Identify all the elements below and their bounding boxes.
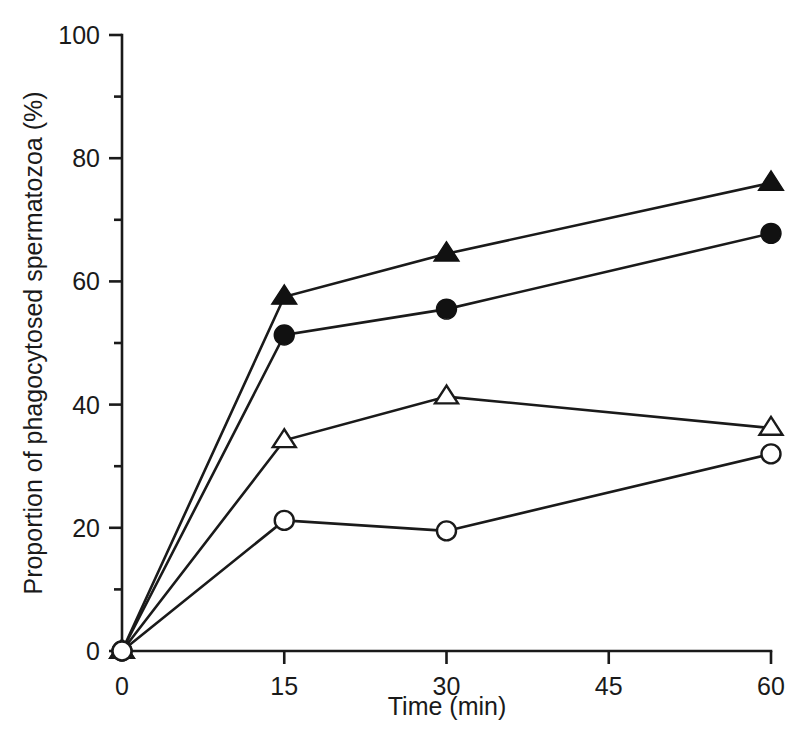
x-axis-tick-label: 15 <box>270 672 298 700</box>
data-point-open-circle <box>275 511 294 530</box>
axes <box>109 35 771 664</box>
origin-marker-cluster <box>110 639 135 661</box>
x-axis-tick-label: 45 <box>595 672 623 700</box>
line-chart: 020406080100015304560 Time (min) Proport… <box>0 0 804 741</box>
data-point-open-triangle <box>435 386 458 404</box>
y-axis-tick-label: 80 <box>72 144 100 172</box>
data-point-open-triangle <box>760 417 783 435</box>
data-point-open-circle <box>113 642 132 661</box>
series-open-triangle <box>122 386 783 651</box>
y-axis-tick-label: 60 <box>72 267 100 295</box>
data-point-filled-circle <box>761 223 781 243</box>
data-point-filled-circle <box>437 299 457 319</box>
y-axis-tick-label: 40 <box>72 391 100 419</box>
data-point-filled-triangle <box>759 171 784 190</box>
tick-labels: 020406080100015304560 <box>58 21 785 700</box>
y-axis-tick-label: 0 <box>86 637 100 665</box>
series-line-open-circle <box>122 454 771 651</box>
y-axis-title: Proportion of phagocytosed spermatozoa (… <box>19 91 47 594</box>
data-series <box>110 171 784 661</box>
series-filled-triangle <box>122 171 784 651</box>
data-point-filled-circle <box>274 325 294 345</box>
y-axis-tick-label: 100 <box>58 21 100 49</box>
x-axis-tick-label: 60 <box>757 672 785 700</box>
y-axis-tick-label: 20 <box>72 514 100 542</box>
data-point-open-circle <box>762 444 781 463</box>
series-line-filled-circle <box>122 233 771 651</box>
chart-figure: 020406080100015304560 Time (min) Proport… <box>0 0 804 741</box>
x-axis-title: Time (min) <box>388 692 507 720</box>
x-axis-tick-label: 0 <box>115 672 129 700</box>
data-point-open-circle <box>437 521 456 540</box>
series-open-circle <box>122 444 781 651</box>
